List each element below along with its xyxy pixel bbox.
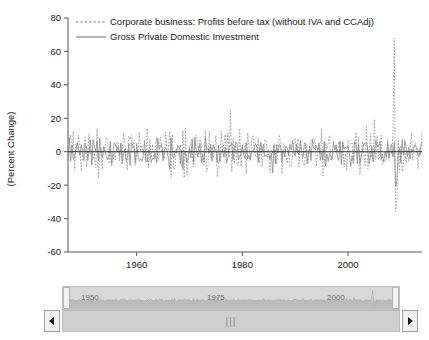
horizontal-scrollbar[interactable]: ||| xyxy=(62,310,400,332)
y-tick-label: 40 xyxy=(50,79,61,90)
x-tick-label: 1980 xyxy=(232,259,253,270)
legend-label: Gross Private Domestic Investment xyxy=(110,31,259,42)
navigator-tick-1950: 1950 xyxy=(81,293,99,302)
y-axis-title: (Percent Change) xyxy=(5,112,16,187)
triangle-right-icon xyxy=(408,317,413,325)
y-tick-label: 80 xyxy=(50,12,61,23)
y-tick-label: 60 xyxy=(50,46,61,57)
range-handle-left[interactable] xyxy=(63,287,70,309)
y-tick-label: 20 xyxy=(50,113,61,124)
navigator-tick-1975: 1975 xyxy=(207,293,225,302)
chart-canvas: 806040200-20-40-60196019802000(Percent C… xyxy=(0,0,429,285)
navigator-preview xyxy=(63,287,399,309)
scroll-right-button[interactable] xyxy=(402,310,418,332)
range-handle-right[interactable] xyxy=(392,287,399,309)
triangle-left-icon xyxy=(49,317,54,325)
scrollbar-grip[interactable]: ||| xyxy=(226,316,237,327)
chart-window: 806040200-20-40-60196019802000(Percent C… xyxy=(0,0,429,340)
series-line xyxy=(68,38,422,211)
legend-label: Corporate business: Profits before tax (… xyxy=(110,16,374,27)
y-tick-label: 0 xyxy=(56,146,61,157)
series-line xyxy=(68,137,422,187)
y-tick-label: -40 xyxy=(47,213,61,224)
navigator-fill xyxy=(63,301,399,309)
main-chart: 806040200-20-40-60196019802000(Percent C… xyxy=(0,0,429,285)
range-navigator[interactable]: 1950 1975 2000 xyxy=(62,286,400,310)
navigator-tick-2000: 2000 xyxy=(327,293,345,302)
x-tick-label: 1960 xyxy=(126,259,147,270)
scroll-left-button[interactable] xyxy=(44,310,60,332)
y-tick-label: -60 xyxy=(47,246,61,257)
x-tick-label: 2000 xyxy=(337,259,358,270)
y-tick-label: -20 xyxy=(47,180,61,191)
